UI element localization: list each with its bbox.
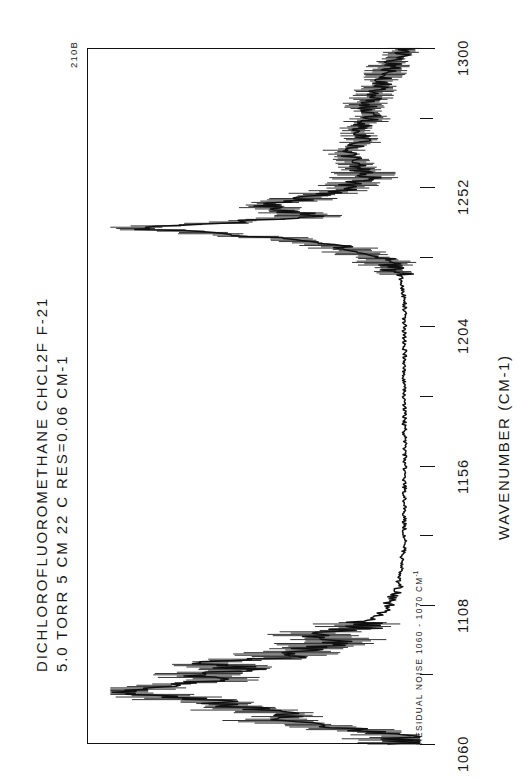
spectrum-noise-overlay [110,48,420,744]
spectrum-page: 210B DICHLOROFLUOROMETHANE CHCL2F F-21 5… [0,0,530,780]
spectrum-trace [0,0,530,780]
